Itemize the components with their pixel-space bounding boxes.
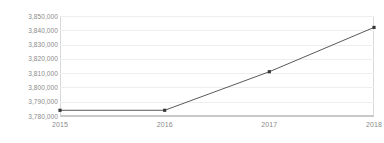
series-layer <box>0 0 384 143</box>
series-line <box>60 27 374 110</box>
line-chart: 3,780,0003,790,0003,800,0003,810,0003,82… <box>0 0 384 143</box>
data-point-marker <box>268 70 271 73</box>
data-point-marker <box>372 26 375 29</box>
data-point-marker <box>58 109 61 112</box>
data-point-marker <box>163 109 166 112</box>
series-markers <box>58 26 375 112</box>
